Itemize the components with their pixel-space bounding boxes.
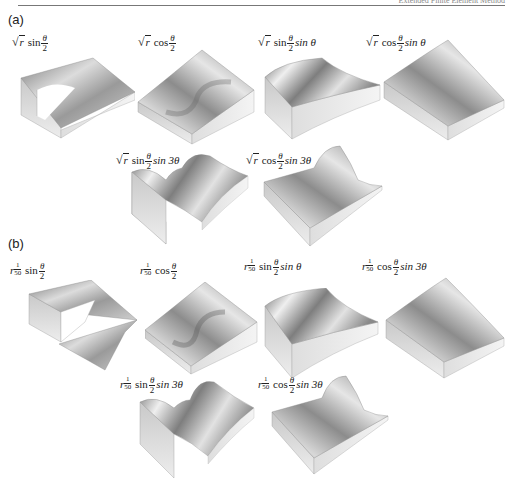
surface-plot-a4 [382, 36, 512, 144]
panel-label-a: (a) [8, 12, 24, 27]
formula-b1: r150 sinθ2 [10, 262, 46, 281]
surface-plot-a5 [130, 150, 260, 250]
formula-b3: r150 sinθ2sin θ [244, 258, 301, 277]
running-header: Extended Finite Element Method [18, 0, 505, 4]
surface-plot-b4 [384, 274, 512, 382]
surface-plot-a2 [136, 40, 260, 150]
surface-plot-b5 [138, 378, 262, 482]
surface-plot-a1 [15, 50, 135, 150]
formula-a3: √r sinθ2sin θ [258, 34, 316, 53]
header-rule [18, 5, 505, 6]
formula-b2: r150 cosθ2 [140, 262, 178, 281]
surface-plot-a6 [262, 144, 392, 250]
panel-label-b: (b) [8, 236, 24, 251]
surface-plot-b6 [270, 372, 396, 478]
surface-plot-a3 [262, 55, 384, 150]
surface-plot-b3 [262, 288, 384, 383]
surface-plot-b1 [15, 280, 140, 380]
surface-plot-b2 [145, 282, 263, 382]
